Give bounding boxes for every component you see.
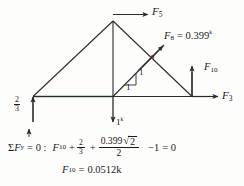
force-label-f8: F8= 0.399k bbox=[164, 30, 212, 42]
equation-plus-1: + bbox=[69, 142, 75, 153]
term2-denominator: 3 bbox=[77, 148, 85, 156]
result-equals: = bbox=[79, 164, 85, 175]
result-unit: k bbox=[116, 164, 121, 175]
term3-coefficient: 0.399 bbox=[101, 136, 123, 147]
reaction-denominator: 3 bbox=[14, 105, 20, 113]
f5-subscript: 5 bbox=[159, 10, 163, 19]
radicand: 2 bbox=[128, 136, 137, 147]
slope-label-vertical: 1 bbox=[139, 68, 144, 77]
f8-subscript: 8 bbox=[170, 34, 174, 42]
slope-label-horizontal: 1 bbox=[126, 83, 131, 92]
square-root-icon: √ 2 bbox=[123, 136, 137, 147]
equilibrium-equation: ΣFy = 0 : F10 + 2 3 + 0.399 √ 2 2 −1 bbox=[8, 136, 176, 159]
f8-value: = 0.399 bbox=[177, 30, 209, 41]
term3-fraction: 0.399 √ 2 2 bbox=[99, 136, 140, 159]
sum-subscript: y bbox=[21, 143, 25, 151]
f10-subscript: 10 bbox=[210, 66, 217, 74]
f3-subscript: 3 bbox=[229, 94, 233, 103]
statics-figure: F5 F8= 0.399k F10 F3 1k 1 1 2 3 +↑ ΣFy =… bbox=[0, 0, 244, 186]
result-equation: F10 = 0.0512k bbox=[62, 164, 122, 175]
member-left-top-chord bbox=[33, 21, 113, 97]
f3-symbol: F bbox=[222, 89, 229, 101]
sign-convention-label: +↑ bbox=[22, 128, 28, 136]
force-label-reaction: 2 3 bbox=[14, 96, 20, 113]
force-label-f3: F3 bbox=[222, 90, 232, 102]
result-subscript: 10 bbox=[68, 166, 75, 174]
term2-numerator: 2 bbox=[77, 139, 85, 147]
term3-denominator: 2 bbox=[114, 148, 123, 159]
f8-unit: k bbox=[209, 29, 212, 35]
term1-subscript: 10 bbox=[59, 143, 66, 151]
force-label-f10: F10 bbox=[204, 62, 218, 74]
equation-minus-term: −1 bbox=[148, 142, 159, 153]
load-unit: k bbox=[121, 116, 124, 122]
force-label-f5: F5 bbox=[152, 6, 162, 18]
f5-symbol: F bbox=[152, 5, 159, 17]
reaction-numerator: 2 bbox=[14, 96, 20, 104]
force-label-applied-load: 1k bbox=[116, 117, 123, 127]
equation-equals-zero: = 0 : bbox=[27, 142, 46, 153]
term2-fraction: 2 3 bbox=[77, 139, 85, 156]
term3-numerator: 0.399 √ 2 bbox=[99, 136, 140, 147]
equation-plus-2: + bbox=[90, 142, 96, 153]
equation-equals-result: = 0 bbox=[162, 142, 176, 153]
result-value: 0.0512 bbox=[87, 164, 116, 175]
